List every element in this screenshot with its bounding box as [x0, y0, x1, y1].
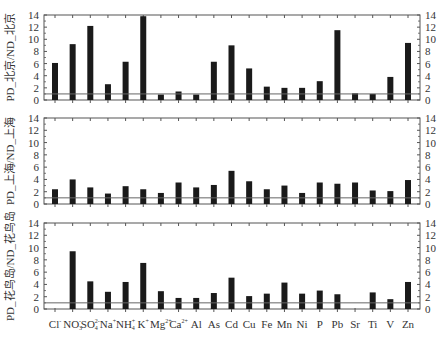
- bar-Mg²⁺: [158, 95, 164, 100]
- bar-Pb: [334, 294, 340, 309]
- bar-SO₄²⁻: [87, 187, 93, 204]
- y-tick-label-right: 14: [425, 112, 437, 124]
- y-tick-label-left: 12: [28, 124, 39, 136]
- y-tick-label-left: 4: [34, 70, 40, 82]
- x-tick-label: Cd: [225, 318, 238, 330]
- y-tick-label-left: 14: [28, 9, 40, 21]
- bar-As: [211, 185, 217, 204]
- chart-canvas: 0022446688101012121414PD_北京/ND_北京0022446…: [0, 0, 440, 341]
- bar-P: [317, 81, 323, 100]
- y-tick-label-left: 2: [34, 186, 40, 198]
- y-tick-label-left: 8: [34, 149, 40, 161]
- x-tick-label: Ni: [297, 318, 308, 330]
- y-tick-label-left: 14: [28, 112, 40, 124]
- y-tick-label-right: 12: [425, 229, 436, 241]
- x-tick-label: V: [386, 318, 394, 330]
- x-tick-label: K+: [138, 318, 150, 330]
- y-axis-label: PD_花鸟岛/ND_花鸟岛: [3, 211, 16, 321]
- x-tick-label: As: [208, 318, 220, 330]
- y-tick-label-left: 2: [34, 291, 40, 303]
- panel-2: 0022446688101012121414PD_上海/ND_上海: [3, 112, 437, 210]
- y-tick-label-left: 4: [34, 173, 40, 185]
- y-tick-label-right: 2: [425, 82, 431, 94]
- bar-Cl⁻: [52, 189, 58, 204]
- bar-As: [211, 293, 217, 309]
- x-tick-label: NH4+: [116, 318, 136, 331]
- y-tick-label-right: 6: [425, 161, 431, 173]
- bar-Ca²⁺: [176, 298, 182, 309]
- bar-Pb: [334, 30, 340, 100]
- y-tick-label-right: 6: [425, 266, 431, 278]
- y-tick-label-right: 10: [425, 33, 437, 45]
- panel-3: 0022446688101012121414PD_花鸟岛/ND_花鸟岛: [3, 211, 437, 321]
- bar-K⁺: [140, 189, 146, 204]
- x-axis-labels: Cl-NO3-SO42-Na+NH4+K+Mg2+Ca2+AlAsCdCuFeM…: [49, 318, 415, 331]
- bar-Cu: [246, 68, 252, 100]
- x-tick-label: Cl-: [49, 318, 61, 330]
- y-tick-label-right: 2: [425, 186, 431, 198]
- bar-SO₄²⁻: [87, 26, 93, 100]
- bar-Al: [193, 95, 199, 100]
- bar-NO₃⁻: [70, 44, 76, 100]
- y-tick-label-right: 0: [425, 303, 431, 315]
- bar-Fe: [264, 87, 270, 100]
- bar-chart: 0022446688101012121414PD_北京/ND_北京0022446…: [0, 0, 440, 341]
- x-tick-label: Fe: [261, 318, 272, 330]
- bar-Na⁺: [105, 84, 111, 100]
- x-tick-label: NO3-: [63, 318, 82, 331]
- y-tick-label-right: 12: [425, 124, 436, 136]
- bar-NO₃⁻: [70, 179, 76, 204]
- x-tick-label: Na+: [100, 318, 117, 330]
- bar-Mn: [281, 283, 287, 309]
- y-tick-label-left: 10: [28, 137, 40, 149]
- y-axis-label: PD_上海/ND_上海: [3, 117, 16, 205]
- y-tick-label-right: 8: [425, 45, 431, 57]
- bar-Pb: [334, 184, 340, 204]
- x-tick-label: Cu: [243, 318, 256, 330]
- bar-K⁺: [140, 16, 146, 100]
- y-tick-label-left: 6: [34, 161, 40, 173]
- x-tick-label: P: [317, 318, 323, 330]
- x-tick-label: Ti: [368, 318, 377, 330]
- bar-Cu: [246, 181, 252, 204]
- y-tick-label-right: 12: [425, 21, 436, 33]
- bar-Fe: [264, 294, 270, 309]
- y-tick-label-right: 0: [425, 198, 431, 210]
- y-tick-label-left: 0: [34, 198, 40, 210]
- y-tick-label-left: 12: [28, 229, 39, 241]
- y-tick-label-left: 14: [28, 217, 40, 229]
- bar-Ni: [299, 193, 305, 204]
- x-tick-label: Al: [191, 318, 202, 330]
- y-tick-label-left: 4: [34, 278, 40, 290]
- bar-Sr: [352, 183, 358, 205]
- bar-V: [387, 299, 393, 309]
- bar-Zn: [405, 43, 411, 100]
- bar-Ti: [370, 190, 376, 204]
- x-tick-label: Zn: [402, 318, 415, 330]
- bar-Ti: [370, 292, 376, 309]
- y-tick-label-left: 6: [34, 266, 40, 278]
- x-tick-label: Ca2+: [169, 318, 188, 330]
- y-tick-label-right: 4: [425, 278, 431, 290]
- bar-Ti: [370, 94, 376, 100]
- y-tick-label-left: 10: [28, 33, 40, 45]
- bar-Zn: [405, 282, 411, 309]
- x-tick-label: Pb: [332, 318, 344, 330]
- y-tick-label-right: 4: [425, 173, 431, 185]
- y-tick-label-left: 8: [34, 45, 40, 57]
- y-tick-label-right: 14: [425, 217, 437, 229]
- x-tick-label: Sr: [350, 318, 360, 330]
- bar-Fe: [264, 189, 270, 204]
- x-tick-label: SO42-: [81, 318, 100, 331]
- bar-Cd: [229, 45, 235, 100]
- bar-Mg²⁺: [158, 193, 164, 204]
- bar-P: [317, 291, 323, 309]
- bar-Mn: [281, 186, 287, 204]
- y-tick-label-right: 4: [425, 70, 431, 82]
- y-tick-label-left: 12: [28, 21, 39, 33]
- y-tick-label-right: 14: [425, 9, 437, 21]
- x-tick-label: Mn: [277, 318, 293, 330]
- bar-Na⁺: [105, 194, 111, 204]
- bar-Cd: [229, 171, 235, 204]
- bar-V: [387, 77, 393, 100]
